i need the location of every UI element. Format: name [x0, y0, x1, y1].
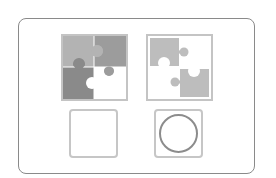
- answer-slot-circle[interactable]: [154, 109, 203, 158]
- jigsaw-pieces-icon: [148, 36, 211, 99]
- jigsaw-puzzle-icon: [63, 36, 126, 99]
- game-card-frame: [18, 18, 255, 174]
- puzzle-tile-partial[interactable]: [146, 34, 213, 101]
- answer-slot-empty[interactable]: [69, 109, 118, 158]
- puzzle-tile-complete[interactable]: [61, 34, 128, 101]
- circle-icon: [159, 114, 198, 153]
